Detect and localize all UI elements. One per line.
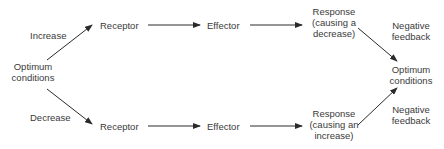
top-response-line1: Response bbox=[300, 6, 368, 17]
bottom-feedback-line2: feedback bbox=[382, 115, 440, 126]
bottom-trigger-label: Decrease bbox=[30, 112, 71, 123]
end-optimum-conditions: Optimum conditions bbox=[382, 64, 440, 86]
top-receptor: Receptor bbox=[100, 20, 139, 31]
top-trigger-label: Increase bbox=[30, 30, 66, 41]
top-response: Response (causing a decrease) bbox=[300, 6, 368, 39]
top-response-line2: (causing a bbox=[300, 17, 368, 28]
bottom-feedback-label: Negative feedback bbox=[382, 104, 440, 126]
bottom-effector: Effector bbox=[207, 121, 240, 132]
top-feedback-label: Negative feedback bbox=[382, 20, 440, 42]
start-line2: conditions bbox=[8, 72, 58, 83]
top-feedback-line1: Negative bbox=[382, 20, 440, 31]
end-line1: Optimum bbox=[382, 64, 440, 75]
bottom-response-line1: Response bbox=[300, 108, 368, 119]
bottom-response-line2: (causing an bbox=[300, 119, 368, 130]
top-response-line3: decrease) bbox=[300, 28, 368, 39]
start-optimum-conditions: Optimum conditions bbox=[8, 61, 58, 83]
top-effector: Effector bbox=[207, 20, 240, 31]
bottom-receptor: Receptor bbox=[100, 121, 139, 132]
start-line1: Optimum bbox=[8, 61, 58, 72]
bottom-response: Response (causing an increase) bbox=[300, 108, 368, 141]
bottom-feedback-line1: Negative bbox=[382, 104, 440, 115]
top-feedback-line2: feedback bbox=[382, 31, 440, 42]
bottom-response-line3: increase) bbox=[300, 130, 368, 141]
end-line2: conditions bbox=[382, 75, 440, 86]
